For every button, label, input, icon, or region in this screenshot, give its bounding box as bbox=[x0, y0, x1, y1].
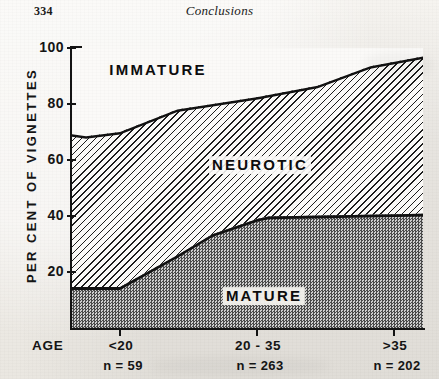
n-label-20-35: n = 263 bbox=[236, 358, 283, 373]
y-axis-line bbox=[70, 46, 72, 330]
band-label-mature: MATURE bbox=[223, 287, 305, 305]
band-label-immature: IMMATURE bbox=[106, 61, 209, 79]
x-label-over-35: >35 bbox=[383, 338, 408, 353]
n-label-over-35: n = 202 bbox=[373, 358, 420, 373]
y-tick-20 bbox=[67, 271, 76, 273]
y-tick-label-100: 100 bbox=[30, 39, 64, 55]
y-tick-60 bbox=[67, 159, 76, 161]
x-label-20-35: 20 - 35 bbox=[235, 338, 281, 353]
x-tick-over-35 bbox=[393, 328, 395, 336]
x-axis-line bbox=[70, 328, 425, 330]
x-tick-under-20 bbox=[119, 328, 121, 336]
running-head: 334 Conclusions bbox=[0, 0, 439, 28]
n-label-under-20: n = 59 bbox=[103, 358, 143, 373]
y-tick-100 bbox=[67, 47, 76, 49]
running-title: Conclusions bbox=[0, 3, 439, 19]
plot-area: IMMATURE NEUROTIC MATURE bbox=[72, 48, 423, 328]
x-label-under-20: <20 bbox=[109, 338, 134, 353]
band-label-neurotic: NEUROTIC bbox=[209, 156, 311, 174]
x-axis-title: AGE bbox=[32, 338, 64, 353]
y-tick-80 bbox=[67, 103, 76, 105]
figure-area-chart: IMMATURE NEUROTIC MATURE 100 80 60 40 20… bbox=[0, 28, 439, 379]
x-tick-20-35 bbox=[256, 328, 258, 336]
y-axis-title: PER CENT OF VIGNETTES bbox=[24, 61, 39, 291]
y-tick-40 bbox=[67, 215, 76, 217]
